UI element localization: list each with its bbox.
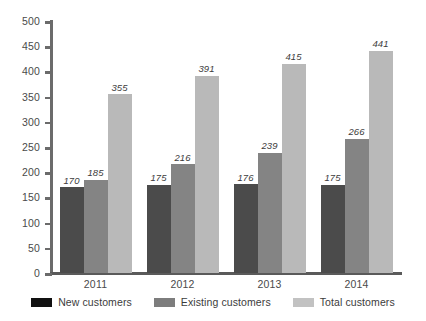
bar[interactable]: 415	[282, 64, 306, 273]
bar[interactable]: 175	[147, 185, 171, 273]
y-axis-tick-mark	[45, 147, 52, 150]
y-axis-tick-label: 300	[22, 117, 40, 128]
y-axis-tick-label: 150	[22, 192, 40, 203]
legend-label: Total customers	[320, 296, 395, 308]
bar-value-label: 391	[199, 64, 215, 74]
bar-slot: 185	[84, 21, 108, 273]
y-axis-tick-mark	[45, 248, 52, 251]
bar[interactable]: 266	[345, 139, 369, 273]
bar[interactable]: 441	[369, 51, 393, 273]
bar-chart: 050100150200250300350400450500 170185355…	[0, 0, 426, 321]
bar-slot: 391	[195, 21, 219, 273]
bar[interactable]: 239	[258, 153, 282, 273]
bar[interactable]: 391	[195, 76, 219, 273]
bar[interactable]: 176	[234, 184, 258, 273]
y-axis-tick-mark	[45, 97, 52, 100]
bar-group-2011: 170185355	[60, 21, 132, 273]
legend-item-total-customers[interactable]: Total customers	[293, 296, 395, 308]
bar-slot: 239	[258, 21, 282, 273]
bar-value-label: 415	[286, 52, 302, 62]
y-axis-tick-label: 50	[28, 243, 40, 254]
bar-slot: 175	[147, 21, 171, 273]
y-axis-tick-label: 0	[34, 268, 40, 279]
y-axis-tick-label: 350	[22, 91, 40, 102]
bar-value-label: 239	[262, 141, 278, 151]
y-axis-tick-mark	[45, 223, 52, 226]
y-axis-tick-mark	[45, 197, 52, 200]
y-axis-tick-mark	[45, 21, 52, 24]
x-axis-category-labels: 2011201220132014	[52, 278, 400, 294]
legend-swatch-icon	[293, 298, 314, 307]
x-axis-label-2014: 2014	[313, 278, 400, 294]
bar-slot: 441	[369, 21, 393, 273]
bar-slot: 175	[321, 21, 345, 273]
bar-slot: 415	[282, 21, 306, 273]
bar-groups: 170185355175216391176239415175266441	[52, 21, 400, 273]
bar-value-label: 185	[88, 168, 104, 178]
x-axis-label-2013: 2013	[226, 278, 313, 294]
y-axis-tick-label: 400	[22, 66, 40, 77]
y-axis-tick-label: 100	[22, 217, 40, 228]
y-axis-tick-label: 450	[22, 41, 40, 52]
bar[interactable]: 216	[171, 164, 195, 273]
y-axis-tick-mark	[45, 46, 52, 49]
bar-value-label: 175	[325, 173, 341, 183]
legend-label: New customers	[58, 296, 132, 308]
bar-value-label: 175	[151, 173, 167, 183]
bar-value-label: 355	[112, 83, 128, 93]
y-axis-tick-mark	[45, 172, 52, 175]
bar[interactable]: 175	[321, 185, 345, 273]
bar-value-label: 266	[349, 127, 365, 137]
y-axis-tick-mark	[45, 122, 52, 125]
bar-group-2013: 176239415	[234, 21, 306, 273]
bar[interactable]: 185	[84, 180, 108, 273]
bar-slot: 176	[234, 21, 258, 273]
x-axis-label-2012: 2012	[139, 278, 226, 294]
y-axis-tick-label: 200	[22, 167, 40, 178]
y-axis-tick-mark	[45, 273, 52, 276]
legend-swatch-icon	[154, 298, 175, 307]
bar-slot: 266	[345, 21, 369, 273]
y-axis-tick-label: 250	[22, 142, 40, 153]
bar-slot: 216	[171, 21, 195, 273]
legend-label: Existing customers	[181, 296, 271, 308]
bar-group-2012: 175216391	[147, 21, 219, 273]
legend-swatch-icon	[31, 298, 52, 307]
bar[interactable]: 170	[60, 187, 84, 273]
legend-item-new-customers[interactable]: New customers	[31, 296, 132, 308]
x-axis-label-2011: 2011	[52, 278, 139, 294]
bar-slot: 355	[108, 21, 132, 273]
chart-legend: New customersExisting customersTotal cus…	[0, 296, 426, 308]
y-axis-tick-label: 500	[22, 16, 40, 27]
legend-item-existing-customers[interactable]: Existing customers	[154, 296, 271, 308]
bar-value-label: 216	[175, 153, 191, 163]
y-axis-tick-mark	[45, 71, 52, 74]
bar-group-2014: 175266441	[321, 21, 393, 273]
bar-slot: 170	[60, 21, 84, 273]
bar-value-label: 441	[373, 39, 389, 49]
bar-value-label: 176	[238, 173, 254, 183]
bar[interactable]: 355	[108, 94, 132, 273]
bar-value-label: 170	[64, 176, 80, 186]
plot-area: 050100150200250300350400450500 170185355…	[52, 21, 400, 273]
